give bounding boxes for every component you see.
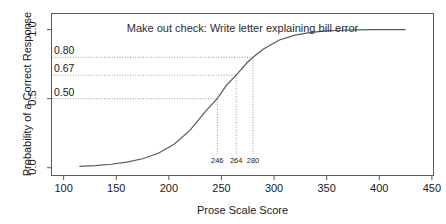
x-tick-label: 150 (107, 182, 125, 194)
y-tick-label: 0.0 (26, 156, 38, 178)
x-axis-label: Prose Scale Score (51, 204, 434, 216)
y-tick-label: 1.0 (26, 18, 38, 40)
probability-annotation-label: 0.67 (54, 62, 74, 74)
x-tick-label: 300 (265, 182, 283, 194)
x-tick-label: 200 (160, 182, 178, 194)
chart-title: Make out check: Write letter explaining … (51, 22, 434, 34)
chart-figure: Make out check: Write letter explaining … (0, 0, 446, 224)
x-tick-label: 100 (54, 182, 72, 194)
y-tick-label: 0.5 (26, 87, 38, 109)
score-annotation-label: 264 (230, 156, 243, 165)
x-tick-label: 450 (423, 182, 441, 194)
score-annotation-label: 280 (247, 156, 260, 165)
probability-annotation-label: 0.80 (54, 44, 74, 56)
probability-annotation-label: 0.50 (54, 86, 74, 98)
x-tick-label: 250 (212, 182, 230, 194)
x-tick-label: 400 (370, 182, 388, 194)
guide-lines (52, 57, 253, 154)
score-annotation-label: 246 (211, 156, 224, 165)
response-curve (79, 30, 405, 167)
x-tick-label: 350 (317, 182, 335, 194)
